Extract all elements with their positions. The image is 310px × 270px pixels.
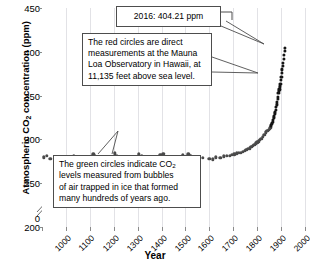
- annotation-red-line-3: Loa Observatory in Hawaii, at: [88, 59, 206, 70]
- annotation-green-line-1-subscript: 2: [172, 162, 175, 169]
- annotation-red-line-4: 11,135 feet above sea level.: [88, 71, 206, 82]
- annotation-red-line-2: measurements at the Mauna: [88, 48, 206, 59]
- annotation-peak-value: 2016: 404.21 ppm: [116, 6, 221, 27]
- co2-concentration-chart: Atmospheric CO2 concentration (ppm) Year…: [0, 0, 310, 270]
- annotation-green-line-4: many hundreds of years ago.: [59, 193, 195, 204]
- annotation-red-line-1: The red circles are direct: [88, 37, 206, 48]
- annotation-green-line-3: of air trapped in ice that formed: [59, 182, 195, 193]
- annotation-green-line-1-pre: The green circles indicate CO: [59, 159, 172, 169]
- annotation-red-circles-note: The red circles are direct measurements …: [82, 33, 212, 86]
- annotation-green-circles-note: The green circles indicate CO2 levels me…: [53, 155, 201, 208]
- annotation-green-line-1: The green circles indicate CO2: [59, 159, 195, 170]
- annotation-peak-value-text: 2016: 404.21 ppm: [134, 11, 203, 21]
- annotation-green-line-2: levels measured from bubbles: [59, 170, 195, 181]
